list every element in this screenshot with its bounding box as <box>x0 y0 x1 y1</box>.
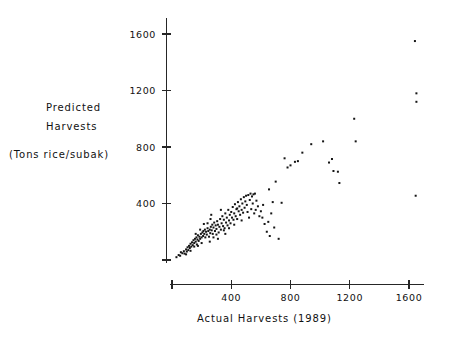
data-point <box>281 202 283 204</box>
x-tick-label-1600: 1600 <box>396 292 423 303</box>
data-point <box>301 152 303 154</box>
data-point <box>207 222 209 224</box>
data-point <box>245 195 247 197</box>
data-point <box>257 205 259 207</box>
data-point <box>195 236 197 238</box>
data-point <box>185 248 187 250</box>
data-point <box>212 227 214 229</box>
data-point <box>415 92 417 94</box>
data-point <box>210 218 212 220</box>
data-point <box>332 170 334 172</box>
y-axis-units-label: (Tons rice/subak) <box>9 149 109 160</box>
y-tick-label-800: 800 <box>136 142 156 153</box>
data-point <box>195 241 197 243</box>
data-point <box>202 235 204 237</box>
data-point <box>224 212 226 214</box>
data-point <box>253 212 255 214</box>
x-axis: 40080012001600 <box>170 280 424 303</box>
y-axis-tick-labels: 40080012001600 <box>129 29 156 210</box>
data-point <box>175 256 177 258</box>
data-point <box>246 204 248 206</box>
x-tick-label-800: 800 <box>281 292 301 303</box>
data-point <box>247 211 249 213</box>
data-point <box>218 231 220 233</box>
data-point <box>215 228 217 230</box>
data-point <box>260 210 262 212</box>
data-point <box>238 210 240 212</box>
data-point <box>233 224 235 226</box>
data-point <box>268 188 270 190</box>
data-point <box>269 235 271 237</box>
data-point <box>209 229 211 231</box>
data-point <box>217 224 219 226</box>
y-axis: 40080012001600 <box>129 18 171 263</box>
data-point <box>212 233 214 235</box>
data-point <box>203 233 205 235</box>
data-point <box>284 157 286 159</box>
data-point <box>273 227 275 229</box>
data-point <box>221 215 223 217</box>
data-point <box>221 222 223 224</box>
data-point <box>209 232 211 234</box>
data-point <box>244 207 246 209</box>
data-point <box>250 208 252 210</box>
data-point <box>275 181 277 183</box>
y-tick-label-1200: 1200 <box>129 85 156 96</box>
x-axis-title: Actual Harvests (1989) <box>197 313 332 324</box>
data-point <box>261 217 263 219</box>
data-point <box>272 201 274 203</box>
data-point <box>235 215 237 217</box>
data-point <box>322 140 324 142</box>
data-point <box>188 245 190 247</box>
data-point <box>237 201 239 203</box>
data-point <box>219 218 221 220</box>
data-point <box>264 223 266 225</box>
data-point <box>231 217 233 219</box>
data-point <box>225 222 227 224</box>
data-point <box>217 238 219 240</box>
data-point <box>224 227 226 229</box>
data-point <box>414 40 416 42</box>
data-point <box>294 161 296 163</box>
data-point <box>267 221 269 223</box>
data-points-layer <box>175 40 417 258</box>
data-point <box>228 227 230 229</box>
data-point <box>190 250 192 252</box>
data-point <box>249 199 251 201</box>
data-point <box>197 245 199 247</box>
data-point <box>227 224 229 226</box>
data-point <box>234 203 236 205</box>
data-point <box>201 242 203 244</box>
data-point <box>215 224 217 226</box>
data-point <box>255 209 257 211</box>
data-point <box>210 214 212 216</box>
data-point <box>216 220 218 222</box>
data-point <box>337 171 339 173</box>
y-tick-label-400: 400 <box>136 198 156 209</box>
data-point <box>232 206 234 208</box>
data-point <box>209 241 211 243</box>
data-point <box>215 234 217 236</box>
data-point <box>258 215 260 217</box>
data-point <box>278 238 280 240</box>
data-point <box>185 253 187 255</box>
data-point <box>239 214 241 216</box>
x-tick-label-1200: 1200 <box>336 292 363 303</box>
data-point <box>250 193 252 195</box>
data-point <box>310 143 312 145</box>
data-point <box>204 236 206 238</box>
data-point <box>338 182 340 184</box>
data-point <box>353 118 355 120</box>
data-point <box>229 214 231 216</box>
data-point <box>297 160 299 162</box>
data-point <box>213 222 215 224</box>
data-point <box>198 240 200 242</box>
x-axis-tick-labels: 40080012001600 <box>221 292 422 303</box>
data-point <box>223 219 225 221</box>
chart-canvas: 40080012001600 40080012001600 Predicted … <box>0 0 452 345</box>
data-point <box>224 233 226 235</box>
data-point <box>241 209 243 211</box>
data-point <box>240 198 242 200</box>
data-point <box>270 212 272 214</box>
y-axis-title-line2: Harvests <box>46 121 97 132</box>
